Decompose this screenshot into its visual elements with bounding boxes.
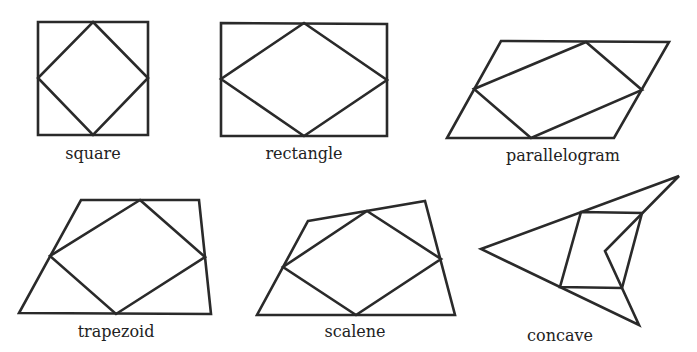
concave-label: concave bbox=[527, 326, 593, 345]
rectangle-label: rectangle bbox=[265, 144, 342, 163]
concave-outer-quadrilateral bbox=[481, 176, 679, 325]
figure-scalene: scalene bbox=[257, 201, 455, 341]
parallelogram-midpoint-quadrilateral bbox=[474, 42, 642, 138]
figure-trapezoid: trapezoid bbox=[19, 200, 211, 341]
figure-concave: concave bbox=[481, 176, 679, 345]
figure-rectangle: rectangle bbox=[221, 23, 387, 163]
rectangle-outer-quadrilateral bbox=[221, 23, 387, 136]
parallelogram-outer-quadrilateral bbox=[447, 41, 669, 138]
square-midpoint-quadrilateral bbox=[38, 22, 148, 135]
trapezoid-outer-quadrilateral bbox=[19, 200, 211, 314]
scalene-label: scalene bbox=[324, 322, 385, 341]
figure-parallelogram: parallelogram bbox=[447, 41, 669, 165]
rectangle-midpoint-quadrilateral bbox=[221, 23, 387, 136]
concave-midpoint-quadrilateral bbox=[560, 212, 642, 288]
parallelogram-label: parallelogram bbox=[506, 146, 620, 165]
figure-square: square bbox=[38, 22, 148, 163]
quadrilateral-diagram: square rectangle parallelogram trapezoid… bbox=[0, 0, 697, 352]
trapezoid-label: trapezoid bbox=[78, 322, 155, 341]
scalene-midpoint-quadrilateral bbox=[283, 211, 441, 315]
square-outer-quadrilateral bbox=[38, 22, 148, 135]
trapezoid-midpoint-quadrilateral bbox=[50, 200, 205, 314]
square-label: square bbox=[65, 144, 120, 163]
